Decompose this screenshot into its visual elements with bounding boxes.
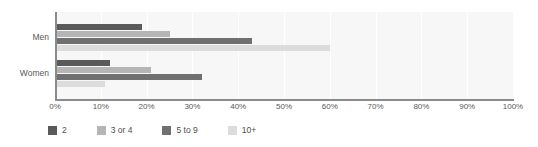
- bar-row: [55, 67, 513, 73]
- bar-women-10+: [55, 81, 105, 87]
- chart-legend: 23 or 45 to 910+: [48, 126, 286, 135]
- bar-row: [55, 74, 513, 80]
- bar-row: [55, 24, 513, 30]
- x-tick-label: 10%: [93, 103, 109, 111]
- x-tick-label: 90%: [459, 103, 475, 111]
- legend-swatch-icon: [228, 126, 237, 135]
- bar-men-10+: [55, 45, 330, 51]
- bar-group-women: Women: [55, 60, 513, 88]
- x-tick-label: 30%: [184, 103, 200, 111]
- legend-item-2[interactable]: 2: [48, 126, 67, 135]
- legend-item-5-to-9[interactable]: 5 to 9: [162, 126, 197, 135]
- bar-women-3-or-4: [55, 67, 151, 73]
- bar-row: [55, 81, 513, 87]
- bar-men-5-to-9: [55, 38, 252, 44]
- bar-group-men: Men: [55, 24, 513, 52]
- legend-label: 2: [62, 126, 67, 135]
- x-tick-label: 60%: [322, 103, 338, 111]
- bar-men-3-or-4: [55, 31, 170, 37]
- legend-item-10+[interactable]: 10+: [228, 126, 256, 135]
- x-tick-label: 50%: [276, 103, 292, 111]
- bar-chart: MenWomen 0%10%20%30%40%50%60%70%80%90%10…: [0, 0, 538, 147]
- gridline: [513, 12, 514, 100]
- bar-row: [55, 60, 513, 66]
- legend-swatch-icon: [48, 126, 57, 135]
- legend-swatch-icon: [162, 126, 171, 135]
- x-tick-label: 40%: [230, 103, 246, 111]
- bar-women-2: [55, 60, 110, 66]
- legend-swatch-icon: [97, 126, 106, 135]
- legend-label: 10+: [242, 126, 256, 135]
- x-tick-label: 100%: [503, 103, 523, 111]
- category-label-women: Women: [20, 69, 49, 78]
- bar-women-5-to-9: [55, 74, 202, 80]
- x-tick-label: 20%: [139, 103, 155, 111]
- category-label-men: Men: [32, 33, 49, 42]
- x-axis-line: [55, 99, 514, 101]
- bar-row: [55, 31, 513, 37]
- bar-men-2: [55, 24, 142, 30]
- bar-row: [55, 38, 513, 44]
- legend-item-3-or-4[interactable]: 3 or 4: [97, 126, 133, 135]
- x-tick-label: 0%: [49, 103, 61, 111]
- bar-row: [55, 45, 513, 51]
- legend-label: 3 or 4: [111, 126, 133, 135]
- x-tick-label: 80%: [413, 103, 429, 111]
- x-tick-label: 70%: [368, 103, 384, 111]
- legend-label: 5 to 9: [176, 126, 197, 135]
- plot-area: MenWomen: [55, 12, 513, 100]
- y-axis-line: [55, 12, 57, 100]
